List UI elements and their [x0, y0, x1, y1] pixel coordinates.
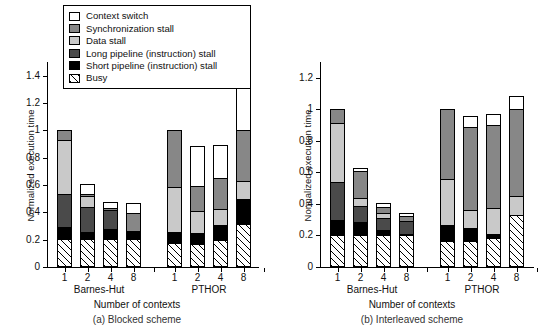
legend-label-busy: Busy	[86, 73, 107, 83]
bar-segment-data_stall	[191, 212, 204, 234]
y-tick-label: 0	[34, 262, 40, 272]
bar-segment-data_stall	[464, 211, 477, 229]
y-tick-label: 1.4	[26, 71, 40, 81]
bar-segment-short_pipeline_stall	[168, 233, 181, 244]
bar-segment-long_pipeline_stall	[354, 207, 367, 222]
bar-segment-context_switch	[127, 204, 140, 213]
bar-pthor-8-contexts	[236, 76, 251, 267]
x-tick-label: 2	[195, 272, 201, 283]
legend-item-long_pipeline_stall: Long pipeline (instruction) stall	[69, 47, 244, 59]
x-tick-label: 1	[445, 272, 451, 283]
legend-item-context_switch: Context switch	[69, 10, 244, 22]
x-tick-label: 2	[85, 272, 91, 283]
bar-barnes-hut-1-contexts	[57, 130, 72, 267]
bar-segment-sync_stall	[58, 131, 71, 141]
bar-segment-data_stall	[237, 182, 250, 200]
y-tick-label: 1	[307, 104, 313, 114]
y-tick	[43, 240, 48, 241]
legend-item-busy: Busy	[69, 72, 244, 84]
bar-pthor-1-contexts	[167, 130, 182, 267]
legend-swatch-context_switch-icon	[69, 12, 80, 21]
caption-b: (b) Interleaved scheme	[275, 314, 549, 325]
bar-segment-short_pipeline_stall	[191, 234, 204, 244]
bar-segment-long_pipeline_stall	[377, 219, 390, 230]
bar-pthor-1-contexts	[440, 109, 455, 267]
bar-segment-data_stall	[441, 180, 454, 226]
bar-barnes-hut-8-contexts	[399, 213, 414, 267]
bar-pthor-4-contexts	[486, 114, 501, 267]
bar-segment-busy	[237, 225, 250, 266]
y-tick	[316, 172, 321, 173]
x-tick	[264, 268, 265, 272]
bar-segment-data_stall	[487, 209, 500, 235]
y-tick-label: 1.2	[299, 73, 313, 83]
bar-segment-busy	[331, 236, 344, 266]
bar-segment-short_pipeline_stall	[237, 200, 250, 225]
x-tick-label: 8	[404, 272, 410, 283]
bar-segment-context_switch	[81, 185, 94, 194]
bar-segment-sync_stall	[214, 179, 227, 211]
x-tick	[537, 268, 538, 272]
bar-segment-context_switch	[510, 97, 523, 110]
bar-pthor-8-contexts	[509, 96, 524, 267]
y-axis-line-b	[320, 62, 321, 268]
bar-segment-short_pipeline_stall	[58, 228, 71, 239]
bar-segment-context_switch	[487, 115, 500, 126]
legend-label-context_switch: Context switch	[86, 11, 148, 21]
bar-segment-short_pipeline_stall	[441, 226, 454, 242]
bar-segment-short_pipeline_stall	[81, 233, 94, 240]
bar-segment-sync_stall	[441, 110, 454, 179]
x-tick-label: 2	[358, 272, 364, 283]
x-tick-label: 4	[218, 272, 224, 283]
bar-barnes-hut-2-contexts	[353, 168, 368, 267]
bar-segment-busy	[464, 242, 477, 266]
x-axis-line-a	[47, 267, 259, 268]
bar-barnes-hut-4-contexts	[376, 203, 391, 267]
x-axis-title-a: Number of contexts	[0, 299, 274, 310]
x-tick-label: 4	[381, 272, 387, 283]
bar-segment-short_pipeline_stall	[127, 232, 140, 241]
bar-segment-busy	[191, 245, 204, 266]
legend-swatch-sync_stall-icon	[69, 24, 80, 33]
y-tick	[316, 235, 321, 236]
y-axis-line-a	[47, 62, 48, 268]
y-tick-label: 0.8	[299, 136, 313, 146]
chart-panel-interleaved-scheme: Normalized execution time 00.20.40.60.81…	[275, 0, 549, 327]
y-tick-label: 0.8	[26, 153, 40, 163]
y-tick	[43, 185, 48, 186]
y-tick-label: 0.6	[299, 167, 313, 177]
bar-segment-data_stall	[81, 197, 94, 208]
plot-area-b: 00.20.40.60.811.2	[320, 62, 534, 268]
group-label-pthor: PTHOR	[465, 284, 500, 295]
bar-barnes-hut-2-contexts	[80, 184, 95, 267]
bar-segment-busy	[377, 236, 390, 266]
bar-segment-sync_stall	[487, 126, 500, 209]
bar-pthor-2-contexts	[190, 146, 205, 267]
bar-segment-long_pipeline_stall	[400, 222, 413, 235]
legend-swatch-busy-icon	[69, 74, 80, 83]
bar-segment-sync_stall	[354, 172, 367, 199]
bar-segment-busy	[214, 241, 227, 266]
y-tick	[43, 212, 48, 213]
bar-pthor-4-contexts	[213, 145, 228, 267]
chart-legend: Context switchSynchronization stallData …	[63, 5, 251, 89]
bar-segment-sync_stall	[127, 214, 140, 232]
bar-segment-sync_stall	[464, 128, 477, 210]
bar-segment-context_switch	[464, 117, 477, 128]
bar-segment-busy	[441, 242, 454, 266]
group-label-pthor: PTHOR	[192, 284, 227, 295]
bar-segment-busy	[168, 244, 181, 266]
bar-segment-long_pipeline_stall	[331, 183, 344, 221]
bar-segment-sync_stall	[331, 110, 344, 124]
x-tick	[154, 268, 155, 272]
caption-a: (a) Blocked scheme	[0, 314, 274, 325]
legend-label-long_pipeline_stall: Long pipeline (instruction) stall	[86, 49, 216, 59]
x-tick-label: 8	[241, 272, 247, 283]
bar-segment-data_stall	[510, 197, 523, 216]
bar-segment-data_stall	[331, 124, 344, 182]
x-tick-label: 8	[131, 272, 137, 283]
bar-segment-busy	[81, 240, 94, 266]
bar-segment-busy	[127, 240, 140, 266]
y-tick	[43, 130, 48, 131]
y-tick-label: 0	[307, 262, 313, 272]
